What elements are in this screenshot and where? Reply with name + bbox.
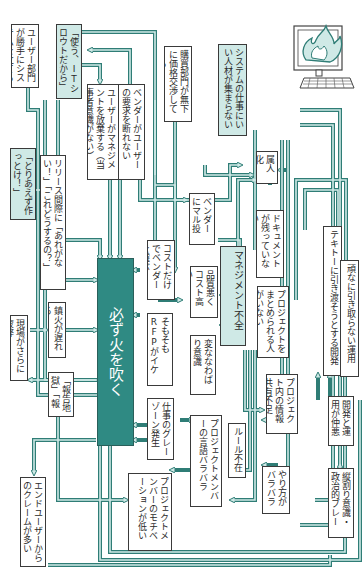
node-end-user: エンドユーザーからのクレームが多い (20, 477, 46, 567)
node-quality-cost: 品質悪くコスト高い (190, 266, 218, 318)
node-user-dept: ユーザー部門が勝手にシステムを立てる (11, 24, 39, 88)
node-cost-vendor: コストだけでベンダーを選ぶ (147, 240, 175, 300)
node-tsukaikake: 「使う、ITシロウトだから」 (56, 24, 82, 99)
node-member-language: プロジェクトメンバーの言語バラバラ (190, 415, 222, 507)
node-no-leader: プロジェクトをまとめられる人がいない (257, 286, 289, 358)
burning-computer-icon (290, 22, 356, 92)
node-dev-ops-bad: 開発と運用が仲悪い (328, 396, 354, 446)
node-info-share: プロジェクト内の情報共有不足 (266, 374, 298, 434)
node-yarikata: やり方がバラバラ (262, 466, 290, 514)
node-toriaezu: 「とりあえず作っとけ！」 (10, 148, 36, 220)
node-central-fire: 必ず火を吹く (97, 258, 134, 446)
node-zokujinka: 属人化 (256, 151, 278, 184)
node-system-talent: システムの仕事にいい人材が集まらない (218, 44, 247, 136)
node-release: リリース間際に「あれがない！」「これどうするの？」 (40, 155, 66, 290)
node-ganko: 頑なに引き取らない運用 (340, 260, 359, 377)
node-genba: 現場がさらに疲弊 (10, 315, 28, 381)
node-no-docs: ドキュメントが残っていない (256, 210, 284, 278)
node-nawabari: 変ななわばり意識 (190, 335, 216, 395)
node-gray-zone: 仕事のグレーゾーン発生 (147, 398, 174, 460)
node-user-mgmt: ユーザーがマネジメントを放棄する（当事者意識がない） (87, 84, 119, 180)
node-hokoku: 「報告地獄」「報告祭り」 (48, 372, 74, 417)
node-tatewari: 縦割り意識・政治的ブレーキ (328, 468, 354, 538)
node-motivation: プロジェクトメンバーのモチベーションが低い (128, 473, 172, 551)
node-vendor-marunage: ベンダーにマル投げ (189, 193, 215, 245)
node-somosomo-rfp: そもそもRFPがイケていない (147, 313, 173, 386)
node-purchasing: 購買部門が無下に価格交渉してくる (164, 46, 192, 122)
node-rule-absent: ルール不在 (228, 423, 246, 478)
node-kaika-delay: 鎮火が遅れる (48, 302, 66, 358)
node-mgmt-lack: マネジメント不全 (220, 246, 246, 346)
node-vendor-refuse: ベンダーがユーザーの要求を断れない (118, 84, 145, 180)
cause-effect-diagram: ユーザー部門が勝手にシステムを立てる 「使う、ITシロウトだから」 ユーザーがマ… (0, 0, 364, 573)
